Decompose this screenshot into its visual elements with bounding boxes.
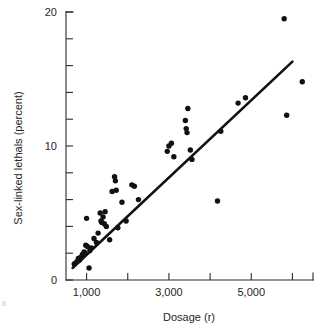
data-point [169, 141, 174, 146]
y-axis-title: Sex-linked lethals (percent) [12, 91, 24, 224]
x-tick-label-1000: 1,000 [73, 286, 101, 298]
data-point [82, 251, 87, 256]
data-point [218, 129, 223, 134]
data-point [183, 118, 188, 123]
data-point [102, 209, 107, 214]
x-axis-title: Dosage (r) [163, 311, 215, 323]
data-point [89, 245, 94, 250]
data-point [123, 218, 128, 223]
data-point [184, 130, 189, 135]
data-point [107, 237, 112, 242]
data-point [119, 200, 124, 205]
data-point [114, 188, 119, 193]
chart-canvas: 8 01020 1,0003,0005,000 Dosage (r) Sex-l… [0, 0, 326, 331]
x-axis-ticks [87, 273, 293, 280]
data-point [115, 225, 120, 230]
data-point [104, 224, 109, 229]
data-point [281, 16, 286, 21]
data-point [84, 216, 89, 221]
y-tick-label-10: 10 [45, 140, 57, 152]
data-point [86, 265, 91, 270]
data-points [72, 16, 305, 271]
data-point [215, 198, 220, 203]
y-axis-ticks [66, 12, 73, 280]
data-point [188, 147, 193, 152]
data-point [95, 230, 100, 235]
data-point [94, 240, 99, 245]
y-tick-label-0: 0 [51, 274, 57, 286]
x-axis-tick-labels: 1,0003,0005,000 [73, 286, 265, 298]
data-point [243, 95, 248, 100]
data-point [235, 100, 240, 105]
y-axis-tick-labels: 01020 [45, 6, 57, 286]
x-tick-label-3000: 3,000 [155, 286, 183, 298]
page-number: 8 [2, 300, 6, 307]
regression-line-segment [73, 62, 293, 268]
data-point [165, 149, 170, 154]
data-point [300, 79, 305, 84]
data-point [185, 106, 190, 111]
data-point [189, 157, 194, 162]
data-point [136, 197, 141, 202]
x-tick-label-5000: 5,000 [237, 286, 265, 298]
scatter-plot-figure: 8 01020 1,0003,0005,000 Dosage (r) Sex-l… [0, 0, 326, 331]
data-point [171, 154, 176, 159]
data-point [113, 178, 118, 183]
regression-line [73, 62, 293, 268]
data-point [284, 112, 289, 117]
y-tick-label-20: 20 [45, 6, 57, 18]
data-point [132, 184, 137, 189]
data-point [100, 214, 105, 219]
